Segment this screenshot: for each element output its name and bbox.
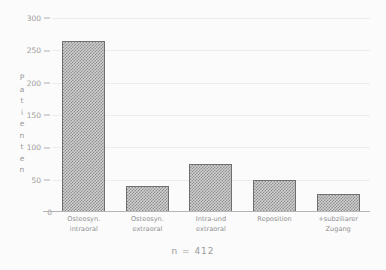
x-axis-label-line2: extraoral	[179, 225, 243, 235]
plot-area: 050100150200250300	[52, 18, 370, 212]
y-axis-tick-mark	[44, 180, 50, 181]
y-axis-tick: 100	[4, 143, 52, 152]
x-axis-label: Osteosyn.extraoral	[116, 215, 180, 234]
y-axis-tick-mark	[44, 115, 50, 116]
y-axis-tick-mark	[44, 18, 50, 19]
bar-series	[52, 18, 370, 212]
bar-chart: Patienten 050100150200250300 Osteosyn.in…	[0, 0, 386, 270]
y-axis-tick: 150	[4, 111, 52, 120]
bar-slot	[116, 18, 180, 212]
x-axis-label-line2: intraoral	[52, 225, 116, 235]
bar	[62, 41, 105, 212]
x-axis-label: +subziliarerZugang	[306, 215, 370, 234]
y-axis-title-letter: e	[20, 153, 25, 165]
x-axis-label-line2: extraoral	[116, 225, 180, 235]
y-axis-tick-mark	[44, 83, 50, 84]
bar-slot	[243, 18, 307, 212]
bar	[189, 164, 232, 213]
y-axis-tick-mark	[44, 147, 50, 148]
y-axis-tick-label: 50	[31, 175, 41, 184]
y-axis-title-letter: n	[20, 164, 25, 176]
bar-slot	[306, 18, 370, 212]
y-axis-title-letter: e	[20, 118, 25, 130]
x-axis-label-line1: Reposition	[257, 215, 291, 223]
x-axis-label-line1: Osteosyn.	[131, 215, 164, 223]
y-axis-tick: 0	[4, 208, 52, 217]
y-axis-tick-label: 100	[27, 143, 41, 152]
chart-caption: n = 412	[0, 246, 386, 256]
y-axis-tick-label: 200	[27, 78, 41, 87]
y-axis-tick-mark	[44, 50, 50, 51]
y-axis-tick-label: 250	[27, 46, 41, 55]
y-axis-tick-label: 300	[27, 14, 41, 23]
y-axis-tick: 200	[4, 78, 52, 87]
y-axis-tick: 250	[4, 46, 52, 55]
x-axis-label-line1: Osteosyn.	[67, 215, 100, 223]
y-axis-title: Patienten	[14, 72, 30, 176]
x-axis-label: Reposition	[243, 215, 307, 234]
x-axis-label: Intra-undextraoral	[179, 215, 243, 234]
bar-slot	[179, 18, 243, 212]
x-axis-label: Osteosyn.intraoral	[52, 215, 116, 234]
bar	[317, 194, 360, 212]
x-axis-labels: Osteosyn.intraoralOsteosyn.extraoralIntr…	[52, 215, 370, 234]
y-axis-title-letter: t	[21, 95, 24, 107]
x-axis-label-line2: Zugang	[306, 225, 370, 235]
y-axis-tick-label: 150	[27, 111, 41, 120]
x-axis-label-line1: Intra-und	[196, 215, 226, 223]
y-axis-tick: 300	[4, 14, 52, 23]
bar	[126, 186, 169, 212]
y-axis-title-letter: n	[20, 130, 25, 142]
x-axis-label-line1: +subziliarer	[318, 215, 358, 223]
y-axis-tick: 50	[4, 175, 52, 184]
x-axis-line	[43, 211, 370, 212]
bar-slot	[52, 18, 116, 212]
bar	[253, 180, 296, 212]
